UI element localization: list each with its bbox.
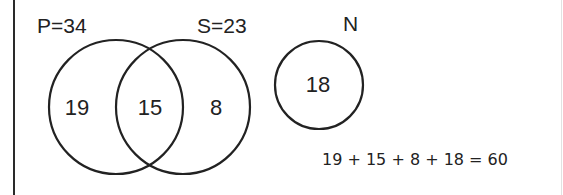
set-label-n: N — [343, 13, 358, 34]
region-p-only: 19 — [65, 97, 89, 119]
region-s-only: 8 — [210, 97, 222, 119]
set-label-p: P=34 — [37, 15, 87, 36]
set-label-s: S=23 — [197, 15, 247, 36]
region-p-and-s: 15 — [138, 97, 162, 119]
sum-equation: 19 + 15 + 8 + 18 = 60 — [322, 152, 508, 168]
venn-diagram-frame: P=34 S=23 N 19 15 8 18 19 + 15 + 8 + 18 … — [0, 0, 563, 195]
region-n-only: 18 — [306, 74, 330, 96]
